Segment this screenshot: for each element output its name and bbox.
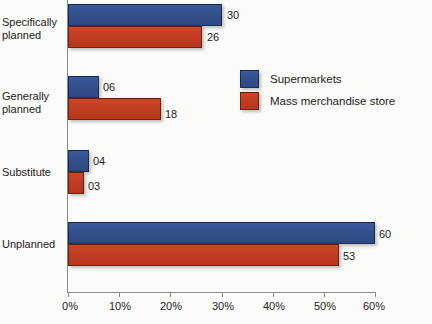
legend-item-mass-merchandise: Mass merchandise store bbox=[240, 91, 395, 111]
bar-substitute-mass-merchandise bbox=[68, 172, 84, 194]
bar-specifically-planned-supermarkets bbox=[68, 4, 222, 26]
bar-value-specifically-planned-mass-merchandise: 26 bbox=[207, 31, 219, 43]
bar-value-substitute-supermarkets: 04 bbox=[93, 155, 105, 167]
bar-value-substitute-mass-merchandise: 03 bbox=[88, 180, 100, 192]
legend: Supermarkets Mass merchandise store bbox=[240, 69, 395, 113]
bar-specifically-planned-mass-merchandise bbox=[68, 26, 202, 48]
bar-value-specifically-planned-supermarkets: 30 bbox=[227, 9, 239, 21]
legend-swatch-supermarkets bbox=[240, 70, 259, 88]
x-tick-label-60: 60% bbox=[363, 300, 385, 312]
bar-value-generally-planned-mass-merchandise: 18 bbox=[165, 108, 177, 120]
category-label-generally-planned: Generally planned bbox=[2, 90, 64, 115]
legend-item-supermarkets: Supermarkets bbox=[240, 69, 395, 89]
bar-unplanned-supermarkets bbox=[68, 222, 375, 244]
x-tick-0 bbox=[68, 292, 69, 297]
legend-label-mass-merchandise: Mass merchandise store bbox=[270, 95, 395, 107]
x-tick-60 bbox=[375, 292, 376, 297]
x-tick-label-50: 50% bbox=[314, 300, 336, 312]
x-tick-20 bbox=[170, 292, 171, 297]
bar-value-generally-planned-supermarkets: 06 bbox=[103, 81, 115, 93]
x-tick-label-10: 10% bbox=[109, 300, 131, 312]
x-tick-40 bbox=[273, 292, 274, 297]
bar-generally-planned-supermarkets bbox=[68, 76, 99, 98]
x-tick-label-0: 0% bbox=[62, 300, 78, 312]
category-label-specifically-planned: Specifically planned bbox=[2, 16, 64, 41]
bar-chart: Specifically planned Generally planned S… bbox=[0, 0, 432, 324]
x-tick-30 bbox=[222, 292, 223, 297]
bar-unplanned-mass-merchandise bbox=[68, 244, 339, 266]
x-tick-label-40: 40% bbox=[263, 300, 285, 312]
bar-substitute-supermarkets bbox=[68, 150, 89, 172]
bar-value-unplanned-supermarkets: 60 bbox=[379, 228, 391, 240]
legend-label-supermarkets: Supermarkets bbox=[270, 73, 342, 85]
x-tick-label-30: 30% bbox=[212, 300, 234, 312]
bar-value-unplanned-mass-merchandise: 53 bbox=[343, 250, 355, 262]
x-tick-label-20: 20% bbox=[160, 300, 182, 312]
x-tick-50 bbox=[324, 292, 325, 297]
category-label-unplanned: Unplanned bbox=[2, 238, 64, 251]
x-tick-10 bbox=[119, 292, 120, 297]
bar-generally-planned-mass-merchandise bbox=[68, 98, 161, 120]
legend-swatch-mass-merchandise bbox=[240, 92, 259, 110]
category-label-substitute: Substitute bbox=[2, 166, 64, 179]
